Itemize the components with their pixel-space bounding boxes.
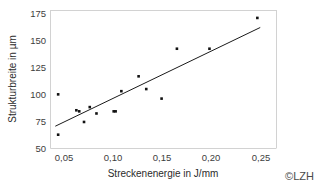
data-point: [120, 90, 123, 93]
y-axis-title: Strukturbreite in µm: [7, 35, 18, 122]
chart-figure: 175 150 125 100 75 50 0,05 0,10 0,15 0,2…: [0, 0, 318, 184]
data-point: [160, 97, 163, 100]
data-point: [256, 17, 259, 20]
data-point: [145, 88, 148, 91]
y-tick-label-150: 150: [30, 35, 46, 46]
data-point: [114, 110, 117, 113]
data-point: [176, 47, 179, 50]
x-axis-title: Streckenenergie in J/mm: [108, 168, 219, 179]
y-tick-label-50: 50: [35, 143, 46, 154]
data-point: [78, 110, 81, 113]
data-point: [95, 112, 98, 115]
copyright-label: ©LZH: [285, 170, 314, 182]
y-tick-label-125: 125: [30, 62, 46, 73]
y-tick-label-75: 75: [35, 116, 46, 127]
data-point: [208, 47, 211, 50]
scatter-plot: 175 150 125 100 75 50 0,05 0,10 0,15 0,2…: [0, 0, 318, 184]
y-tick-label-100: 100: [30, 89, 46, 100]
trend-line: [55, 27, 260, 126]
data-point: [57, 133, 60, 136]
x-tick-label-025: 0,25: [252, 152, 271, 163]
data-point: [88, 106, 91, 109]
data-point: [75, 109, 78, 112]
x-tick-label-015: 0,15: [153, 152, 172, 163]
data-point: [137, 75, 140, 78]
x-tick-label-010: 0,10: [104, 152, 123, 163]
x-tick-label-020: 0,20: [202, 152, 221, 163]
x-tick-label-005: 0,05: [55, 152, 74, 163]
data-point: [83, 121, 86, 124]
y-tick-label-175: 175: [30, 8, 46, 19]
data-point: [57, 93, 60, 96]
